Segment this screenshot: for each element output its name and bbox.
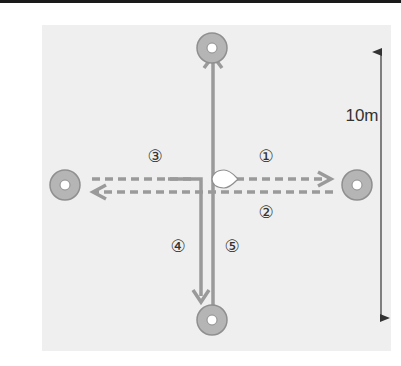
cone-top xyxy=(197,33,227,63)
cone-left xyxy=(50,170,80,200)
path-1-line xyxy=(236,172,331,186)
label-path-3: ③ xyxy=(147,146,162,166)
label-path-5: ⑤ xyxy=(224,236,239,256)
distance-label: 10m xyxy=(345,106,378,125)
cone-right xyxy=(342,170,372,200)
label-path-2: ② xyxy=(258,202,273,222)
label-path-1: ① xyxy=(258,146,273,166)
cone-bottom xyxy=(197,305,227,335)
start-marker-icon xyxy=(212,170,238,188)
drill-diagram: ① ② ③ ④ ⑤ 10m xyxy=(0,0,401,366)
label-path-4: ④ xyxy=(170,236,185,256)
